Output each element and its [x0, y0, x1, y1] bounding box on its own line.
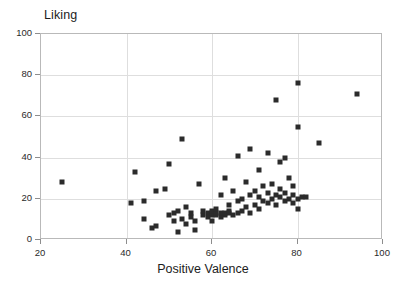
y-tick-label: 40	[0, 151, 32, 162]
y-tick-mark	[35, 157, 40, 158]
y-tick-label: 20	[0, 192, 32, 203]
data-point	[269, 182, 274, 187]
data-point	[188, 211, 193, 216]
data-point	[274, 97, 279, 102]
x-tick-label: 40	[106, 247, 146, 258]
data-point	[154, 188, 159, 193]
data-point	[282, 155, 287, 160]
y-tick-mark	[35, 33, 40, 34]
data-point	[282, 190, 287, 195]
data-point	[231, 188, 236, 193]
data-point	[60, 180, 65, 185]
y-tick-mark	[35, 115, 40, 116]
data-point	[175, 229, 180, 234]
x-axis-label: Positive Valence	[0, 262, 406, 276]
data-point	[261, 184, 266, 189]
y-tick-label: 100	[0, 27, 32, 38]
gridline-horizontal	[41, 75, 381, 76]
y-tick-mark	[35, 74, 40, 75]
y-tick-label: 0	[0, 233, 32, 244]
data-point	[248, 211, 253, 216]
data-point	[128, 200, 133, 205]
plot-area	[40, 33, 382, 239]
x-tick-label: 80	[277, 247, 317, 258]
x-tick-label: 20	[20, 247, 60, 258]
page-title: Liking	[44, 8, 77, 22]
data-point	[295, 81, 300, 86]
y-tick-label: 80	[0, 68, 32, 79]
data-point	[316, 141, 321, 146]
data-point	[141, 217, 146, 222]
data-point	[252, 188, 257, 193]
data-point	[218, 192, 223, 197]
data-point	[175, 209, 180, 214]
x-tick-mark	[126, 239, 127, 244]
data-point	[133, 170, 138, 175]
data-point	[295, 207, 300, 212]
data-point	[235, 153, 240, 158]
data-point	[184, 221, 189, 226]
data-point	[192, 227, 197, 232]
data-point	[227, 202, 232, 207]
gridline-horizontal	[41, 116, 381, 117]
data-point	[141, 198, 146, 203]
data-point	[257, 167, 262, 172]
data-point	[167, 161, 172, 166]
data-point	[244, 180, 249, 185]
data-point	[210, 219, 215, 224]
data-point	[162, 186, 167, 191]
y-tick-mark	[35, 198, 40, 199]
data-point	[295, 124, 300, 129]
data-point	[274, 202, 279, 207]
data-point	[257, 207, 262, 212]
scatter-plot-figure: Liking 02040608010020406080100 Positive …	[0, 0, 406, 287]
gridline-horizontal	[41, 158, 381, 159]
data-point	[222, 176, 227, 181]
gridline-vertical	[127, 34, 128, 238]
data-point	[304, 194, 309, 199]
x-tick-label: 100	[362, 247, 402, 258]
data-point	[197, 182, 202, 187]
y-tick-label: 60	[0, 109, 32, 120]
gridline-horizontal	[41, 199, 381, 200]
x-tick-mark	[382, 239, 383, 244]
data-point	[265, 190, 270, 195]
data-point	[154, 223, 159, 228]
x-tick-mark	[211, 239, 212, 244]
data-point	[265, 151, 270, 156]
data-point	[244, 205, 249, 210]
data-point	[192, 219, 197, 224]
data-point	[355, 91, 360, 96]
data-point	[180, 137, 185, 142]
data-point	[171, 219, 176, 224]
data-point	[248, 147, 253, 152]
data-point	[291, 184, 296, 189]
x-tick-label: 60	[191, 247, 231, 258]
x-tick-mark	[40, 239, 41, 244]
data-point	[184, 205, 189, 210]
x-tick-mark	[297, 239, 298, 244]
data-point	[239, 196, 244, 201]
data-point	[286, 176, 291, 181]
